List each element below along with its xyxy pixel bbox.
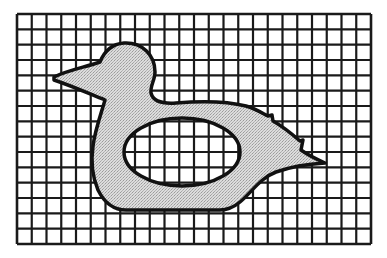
duck-silhouette bbox=[54, 43, 325, 210]
duck-grid-figure bbox=[0, 0, 387, 258]
